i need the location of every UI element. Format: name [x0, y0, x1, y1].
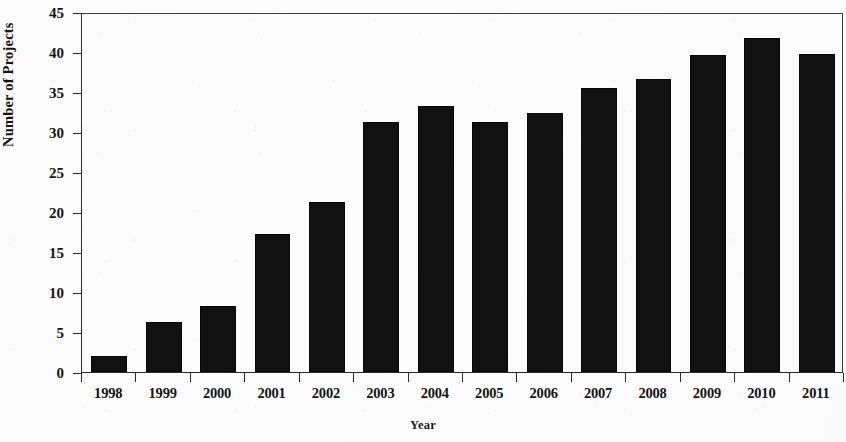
bar: [744, 38, 780, 372]
y-axis-tick-label: 5: [18, 325, 64, 342]
x-axis-tick: [408, 373, 409, 382]
x-axis-tick: [789, 373, 790, 382]
x-axis-tick-label: 1998: [78, 385, 138, 402]
x-axis-tick: [625, 373, 626, 382]
bar: [91, 356, 127, 372]
x-axis-tick: [299, 373, 300, 382]
y-axis-tick-label: 20: [18, 205, 64, 222]
y-axis-tick-label: 25: [18, 165, 64, 182]
x-axis-tick: [734, 373, 735, 382]
bar: [255, 234, 291, 372]
bar: [636, 79, 672, 372]
x-axis-tick-label: 2005: [459, 385, 519, 402]
x-axis-tick-label: 1999: [133, 385, 193, 402]
x-axis-tick-label: 2003: [350, 385, 410, 402]
x-axis-tick-label: 2000: [187, 385, 247, 402]
x-axis-tick-label: 2004: [405, 385, 465, 402]
x-axis-tick-label: 2008: [623, 385, 683, 402]
x-axis-tick: [353, 373, 354, 382]
y-axis-tick-label: 30: [18, 125, 64, 142]
x-axis-tick: [680, 373, 681, 382]
x-axis-tick-label: 2006: [514, 385, 574, 402]
bar-group: [82, 14, 842, 372]
y-axis-tick-label: 35: [18, 85, 64, 102]
bar-chart-figure: Number of Projects 051015202530354045 19…: [0, 0, 846, 442]
bar: [363, 122, 399, 372]
bar: [799, 54, 835, 372]
x-axis-tick-label: 2011: [786, 385, 846, 402]
x-axis-tick: [135, 373, 136, 382]
y-axis-tick-label: 15: [18, 245, 64, 262]
bar: [690, 55, 726, 372]
bar: [527, 113, 563, 372]
plot-area: [81, 13, 843, 373]
bar: [309, 202, 345, 372]
x-axis-tick-label: 2001: [242, 385, 302, 402]
y-axis-tick-label: 45: [18, 5, 64, 22]
y-axis-title: Number of Projects: [0, 0, 17, 147]
x-axis-tick: [516, 373, 517, 382]
y-axis-tick-label: 40: [18, 45, 64, 62]
x-axis-title: Year: [0, 418, 846, 433]
x-axis-tick: [462, 373, 463, 382]
x-axis-tick-label: 2007: [568, 385, 628, 402]
x-axis-tick: [190, 373, 191, 382]
bar: [418, 106, 454, 372]
bar: [581, 88, 617, 372]
bar: [472, 122, 508, 372]
x-axis-tick: [244, 373, 245, 382]
x-axis-tick-label: 2010: [731, 385, 791, 402]
bar: [200, 306, 236, 372]
x-axis-tick: [843, 373, 844, 382]
x-axis-tick: [571, 373, 572, 382]
y-axis-tick-label: 0: [18, 365, 64, 382]
bar: [146, 322, 182, 372]
x-axis-tick-label: 2002: [296, 385, 356, 402]
x-axis-tick-label: 2009: [677, 385, 737, 402]
y-axis-tick-label: 10: [18, 285, 64, 302]
x-axis-tick: [81, 373, 82, 382]
